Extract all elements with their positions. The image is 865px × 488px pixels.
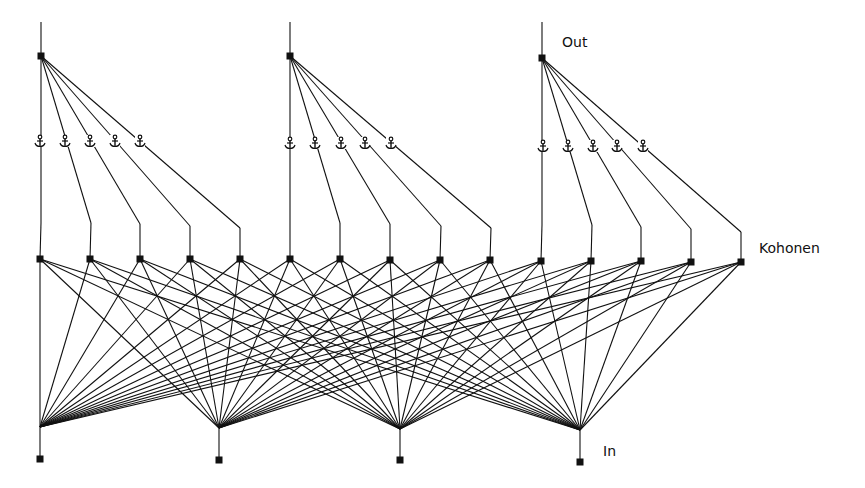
kohonen-node: [187, 256, 194, 263]
network-diagram: [0, 0, 865, 488]
anchor-icon: [135, 135, 145, 147]
output-node: [38, 53, 45, 60]
anchor-icon: [638, 140, 648, 152]
anchor-icon: [588, 140, 598, 152]
connections: [40, 22, 741, 462]
output-kohonen-line: [490, 228, 491, 260]
kohonen-input-line: [40, 260, 440, 427]
anchor-icon: [85, 135, 95, 147]
kohonen-input-line: [219, 260, 490, 428]
output-kohonen-line: [440, 226, 441, 260]
anchor-icon: [563, 140, 573, 152]
kohonen-input-line: [400, 262, 741, 429]
anchor-icon: [60, 135, 70, 147]
kohonen-input-line: [140, 259, 400, 429]
kohonen-node: [688, 259, 695, 266]
input-node: [216, 457, 223, 464]
anchor-icon: [35, 135, 45, 147]
kohonen-node: [137, 256, 144, 263]
kohonen-input-line: [240, 259, 580, 430]
kohonen-node: [337, 256, 344, 263]
kohonen-node: [538, 258, 545, 265]
kohonen-node: [37, 256, 44, 263]
output-node: [287, 53, 294, 60]
output-kohonen-line: [90, 223, 91, 259]
output-kohonen-line: [40, 223, 41, 259]
label-in: In: [603, 443, 616, 459]
input-node: [577, 459, 584, 466]
kohonen-input-line: [40, 259, 290, 427]
anchors: [35, 135, 648, 152]
anchor-icon: [386, 137, 396, 149]
kohonen-node: [638, 258, 645, 265]
anchor-icon: [612, 140, 622, 152]
kohonen-node: [387, 257, 394, 264]
label-kohonen: Kohonen: [759, 240, 820, 256]
input-node: [37, 456, 44, 463]
kohonen-input-line: [490, 260, 580, 430]
input-node: [397, 457, 404, 464]
output-kohonen-line: [591, 225, 592, 261]
anchor-icon: [285, 137, 295, 149]
kohonen-node: [738, 259, 745, 266]
kohonen-node: [287, 256, 294, 263]
kohonen-node: [487, 257, 494, 264]
output-kohonen-line: [541, 225, 542, 261]
label-out: Out: [562, 34, 587, 50]
kohonen-node: [237, 256, 244, 263]
kohonen-input-line: [90, 259, 219, 428]
anchor-icon: [110, 135, 120, 147]
anchor-icon: [310, 137, 320, 149]
kohonen-node: [87, 256, 94, 263]
anchor-icon: [538, 140, 548, 152]
kohonen-input-line: [40, 261, 541, 427]
kohonen-input-line: [219, 262, 741, 428]
output-node: [539, 55, 546, 62]
kohonen-input-line: [219, 261, 541, 428]
kohonen-input-line: [40, 259, 90, 427]
kohonen-input-line: [541, 261, 580, 430]
kohonen-input-line: [40, 259, 400, 429]
anchor-icon: [360, 137, 370, 149]
kohonen-node: [588, 258, 595, 265]
kohonen-node: [437, 257, 444, 264]
anchor-icon: [336, 137, 346, 149]
